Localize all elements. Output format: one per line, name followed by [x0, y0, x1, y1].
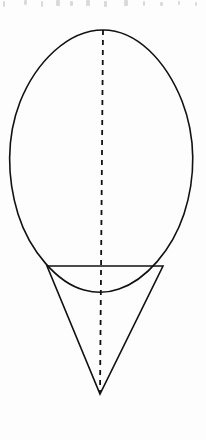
figure-page: Geometric figure: oval above inverted tr…	[0, 0, 206, 440]
dashed-axis-of-symmetry	[100, 30, 103, 394]
triangle-group	[47, 266, 163, 394]
inverted-triangle-outline	[47, 266, 163, 394]
axis-group	[100, 30, 103, 394]
diagram-canvas	[0, 0, 206, 440]
